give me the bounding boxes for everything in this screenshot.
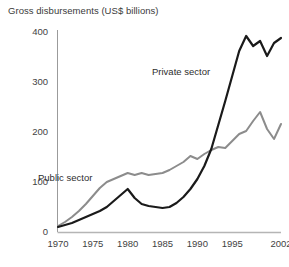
y-tick-label: 0	[14, 226, 48, 237]
chart-figure: Gross disbursements (US$ billions) 01002…	[0, 0, 289, 267]
x-tick-label: 1995	[214, 238, 250, 249]
x-tick-label: 1975	[75, 238, 111, 249]
series-label-private-sector: Private sector	[152, 66, 210, 77]
series-label-public-sector: Public sector	[38, 172, 92, 183]
y-tick-label: 200	[14, 126, 48, 137]
x-tick-label: 1970	[40, 238, 76, 249]
x-tick-label: 1980	[110, 238, 146, 249]
x-tick-label: 1985	[145, 238, 181, 249]
y-tick-label: 300	[14, 76, 48, 87]
x-tick-label: 2002	[263, 238, 289, 249]
x-tick-label: 1990	[179, 238, 215, 249]
series-line-public-sector	[58, 112, 281, 226]
y-tick-label: 400	[14, 26, 48, 37]
